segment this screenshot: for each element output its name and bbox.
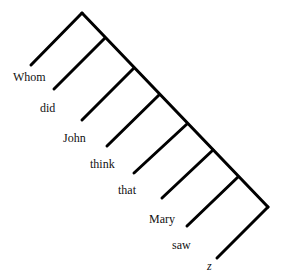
tree-lines xyxy=(0,0,282,280)
leaf-label-that: that xyxy=(118,184,136,196)
syntax-tree-diagram: Whom did John think that Mary saw z xyxy=(0,0,282,280)
branch-line-mary xyxy=(162,150,213,198)
branch-line-that xyxy=(134,124,187,173)
tree-spine xyxy=(82,13,268,207)
leaf-label-trace-z: z xyxy=(207,260,212,272)
leaf-label-whom: Whom xyxy=(13,71,46,83)
leaf-label-think: think xyxy=(90,158,115,170)
leaf-label-john: John xyxy=(63,132,86,144)
leaf-label-saw: saw xyxy=(172,239,191,251)
branch-line-john xyxy=(82,68,134,120)
leaf-label-mary: Mary xyxy=(149,213,175,225)
leaf-label-did: did xyxy=(40,102,55,114)
branch-line-saw xyxy=(187,177,238,226)
branch-line-z xyxy=(217,207,268,258)
branch-line-think xyxy=(107,95,159,146)
branch-line-did xyxy=(54,38,105,89)
branch-line-whom xyxy=(31,13,82,65)
